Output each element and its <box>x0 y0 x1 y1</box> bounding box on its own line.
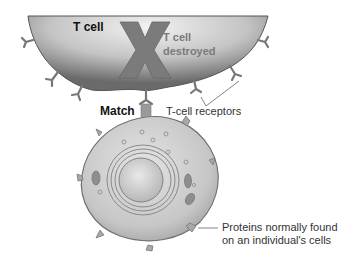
nucleus <box>119 158 163 202</box>
destroyed-line-2: destroyed <box>163 44 216 58</box>
proteins-label: Proteins normally found on an individual… <box>222 221 338 247</box>
t-cell <box>22 16 268 104</box>
destroyed-line-1: T cell <box>163 30 216 44</box>
proteins-line-1: Proteins normally found <box>222 221 338 234</box>
t-cell-receptors-label: T-cell receptors <box>166 105 241 118</box>
body-cell <box>77 104 218 251</box>
receptors-leader-line <box>201 81 239 106</box>
t-cell-destroyed-label: T cell destroyed <box>163 30 216 58</box>
match-label: Match <box>100 104 135 118</box>
t-cell-label: T cell <box>73 20 104 34</box>
proteins-line-2: on an individual's cells <box>222 234 338 247</box>
